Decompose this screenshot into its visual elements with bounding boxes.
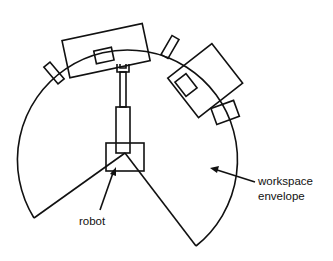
robot-arm-lower (116, 107, 130, 153)
fixture-topright-small (161, 35, 179, 58)
workspace-label-arrow (210, 166, 255, 182)
robot-label: robot (79, 215, 106, 227)
robot-base (106, 143, 144, 171)
robot-label-arrow (100, 167, 116, 210)
workspace-diagram: robot workspace envelope (0, 0, 333, 261)
workspace-label-line1: workspace (257, 175, 313, 187)
machine-right-large (168, 44, 243, 118)
workspace-envelope (17, 50, 237, 246)
fixture-top-small (94, 47, 114, 63)
fixture-right-inner (175, 74, 197, 97)
robot-arm-upper (120, 72, 126, 107)
workspace-label-line2: envelope (258, 190, 305, 202)
